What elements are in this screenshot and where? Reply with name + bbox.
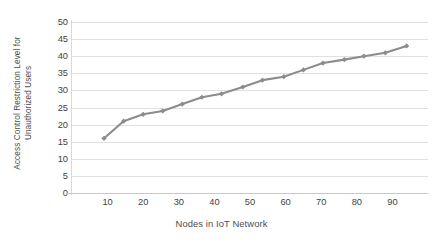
data-point-marker bbox=[141, 112, 146, 117]
series-line bbox=[104, 46, 407, 138]
y-axis-title: Access Control Restriction Level for Una… bbox=[0, 0, 46, 205]
y-axis-tick-label: 45 bbox=[58, 34, 68, 44]
x-axis-tick-label: 30 bbox=[174, 197, 184, 207]
x-axis-tick-labels: 102030405060708090 bbox=[72, 197, 428, 213]
y-axis-title-line2: Unauthorized Users bbox=[23, 36, 34, 169]
series-markers bbox=[101, 43, 409, 141]
x-axis-tick-label: 10 bbox=[102, 197, 112, 207]
data-point-marker bbox=[342, 57, 347, 62]
data-point-marker bbox=[219, 91, 224, 96]
y-axis-tick-label: 50 bbox=[58, 17, 68, 27]
x-axis-tick-label: 90 bbox=[387, 197, 397, 207]
x-axis-tick-label: 60 bbox=[280, 197, 290, 207]
x-axis-line bbox=[66, 193, 428, 194]
y-axis-tick-label: 40 bbox=[58, 51, 68, 61]
x-axis-tick-label: 20 bbox=[138, 197, 148, 207]
data-point-marker bbox=[361, 54, 366, 59]
data-point-marker bbox=[199, 95, 204, 100]
y-axis-tick-label: 25 bbox=[58, 103, 68, 113]
y-axis-tick-labels: 05101520253035404550 bbox=[44, 16, 68, 194]
y-axis-tick-label: 15 bbox=[58, 137, 68, 147]
x-axis-tick-label: 70 bbox=[316, 197, 326, 207]
series-plot bbox=[72, 22, 428, 193]
line-chart: Access Control Restriction Level for Una… bbox=[0, 0, 443, 243]
data-point-marker bbox=[404, 43, 409, 48]
x-axis-tick-label: 80 bbox=[352, 197, 362, 207]
y-axis-tick-label: 35 bbox=[58, 68, 68, 78]
x-axis-tick-label: 40 bbox=[209, 197, 219, 207]
data-point-marker bbox=[160, 108, 165, 113]
data-point-marker bbox=[281, 74, 286, 79]
data-point-marker bbox=[320, 60, 325, 65]
data-point-marker bbox=[260, 78, 265, 83]
data-point-marker bbox=[240, 84, 245, 89]
data-point-marker bbox=[383, 50, 388, 55]
y-axis-tick-label: 20 bbox=[58, 120, 68, 130]
x-axis-title: Nodes in IoT Network bbox=[0, 218, 443, 229]
y-axis-tick-label: 30 bbox=[58, 85, 68, 95]
y-axis-tick-label: 10 bbox=[58, 154, 68, 164]
x-axis-tick-label: 50 bbox=[245, 197, 255, 207]
data-point-marker bbox=[301, 67, 306, 72]
data-point-marker bbox=[180, 101, 185, 106]
y-axis-title-line1: Access Control Restriction Level for bbox=[12, 36, 23, 169]
plot-area bbox=[72, 22, 428, 193]
y-axis-tick-label: 5 bbox=[63, 171, 68, 181]
